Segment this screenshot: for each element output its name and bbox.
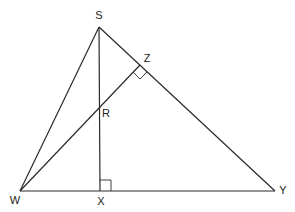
label-z: Z — [144, 52, 151, 64]
label-s: S — [95, 9, 102, 21]
segment-sx-altitude — [99, 27, 100, 191]
segment-wz-altitude — [20, 65, 140, 191]
diagram-canvas: S Z R W X Y — [0, 0, 295, 212]
segment-sw — [20, 27, 99, 191]
label-w: W — [10, 194, 21, 206]
label-x: X — [97, 195, 105, 207]
label-y: Y — [279, 184, 287, 196]
label-r: R — [102, 107, 110, 119]
right-angle-marker-z — [133, 72, 147, 79]
triangle-diagram: S Z R W X Y — [0, 0, 295, 212]
segment-sy — [99, 27, 275, 191]
right-angle-marker-x — [100, 180, 111, 191]
